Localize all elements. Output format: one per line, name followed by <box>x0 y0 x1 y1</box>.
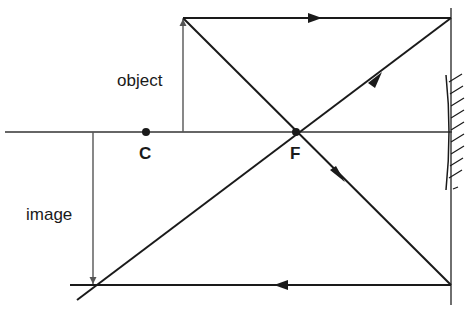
ray-reflected-parallel-arrowhead <box>274 280 288 290</box>
point-f-dot <box>292 128 300 136</box>
ray-reflected-through-focus <box>77 18 451 300</box>
object-label: object <box>117 71 163 90</box>
ray-diagram: object image C F <box>0 0 468 309</box>
ray-focal-incident <box>183 18 451 285</box>
concave-mirror <box>446 74 464 190</box>
image-label: image <box>26 205 72 224</box>
point-c-label: C <box>139 144 151 163</box>
ray-focal-incident-arrowhead <box>330 166 345 182</box>
point-c-dot <box>142 128 150 136</box>
ray-parallel-incident-arrowhead <box>308 13 322 23</box>
point-f-label: F <box>290 144 300 163</box>
